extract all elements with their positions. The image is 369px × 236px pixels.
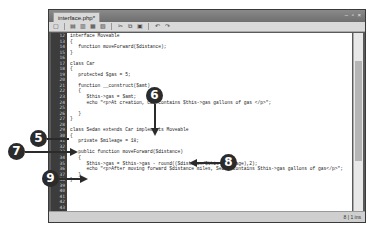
code-editor-window: interface.php* – ▫ × ▢ ▤ ▥ ▦ ▧ ✂ ⧉ ▣ ↶ ↷…	[48, 9, 366, 223]
undo-icon[interactable]: ↶	[153, 23, 161, 30]
callout-5-line	[47, 138, 69, 140]
code-area[interactable]: interface Moveable{ function moveForward…	[70, 33, 352, 211]
toolbar: ▢ ▤ ▥ ▦ ▧ ✂ ⧉ ▣ ↶ ↷	[49, 22, 365, 32]
redo-icon[interactable]: ↷	[163, 23, 171, 30]
code-line[interactable]	[70, 205, 352, 211]
close-icon[interactable]: ▧	[99, 23, 107, 30]
scrollbar-thumb[interactable]	[355, 61, 362, 161]
callout-9-line	[59, 178, 81, 180]
code-editor[interactable]: 1213141516171819202122232425262728293031…	[51, 33, 352, 213]
callout-9-arrowhead	[80, 175, 88, 183]
callout-9: 9	[42, 170, 59, 187]
window-controls[interactable]: – ▫ ×	[345, 12, 362, 18]
callout-5: 5	[30, 130, 47, 147]
cut-icon[interactable]: ✂	[116, 23, 124, 30]
vertical-scrollbar[interactable]	[353, 33, 363, 213]
cursor-position: 8 | 1 ins	[344, 214, 361, 220]
title-bar: interface.php* – ▫ ×	[49, 10, 365, 22]
callout-8-line	[196, 162, 221, 164]
copy-icon[interactable]: ⧉	[126, 23, 134, 30]
callout-7: 7	[8, 143, 25, 160]
open-icon[interactable]: ▤	[69, 23, 77, 30]
toolbar-divider	[111, 23, 112, 30]
callout-8: 8	[220, 154, 237, 171]
toolbar-divider	[148, 23, 149, 30]
callout-6: 6	[146, 87, 163, 104]
callout-8-arrowhead	[189, 159, 197, 167]
code-line[interactable]: echo "<p>After moving forward $distance …	[70, 166, 352, 172]
callout-7-line	[25, 151, 71, 153]
callout-7-arrowhead	[70, 148, 78, 156]
save-all-icon[interactable]: ▦	[89, 23, 97, 30]
status-bar: 8 | 1 ins	[49, 211, 365, 222]
line-number: 43	[51, 205, 67, 211]
new-file-icon[interactable]: ▢	[52, 23, 60, 30]
callout-6-line	[154, 104, 156, 129]
save-icon[interactable]: ▥	[79, 23, 87, 30]
callout-6-arrowhead	[151, 128, 159, 136]
paste-icon[interactable]: ▣	[136, 23, 144, 30]
toolbar-divider	[64, 23, 65, 30]
